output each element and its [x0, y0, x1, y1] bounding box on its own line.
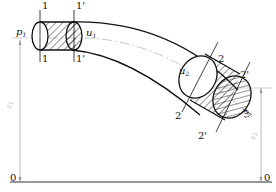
pipe-diagram: [0, 0, 276, 192]
elevation-z2-label: z2: [250, 132, 258, 140]
section-2p-top-label: 2': [240, 70, 249, 80]
section-1-top-label: 1: [42, 1, 48, 11]
datum-left-label: 0: [10, 173, 16, 183]
section-2-top-label: 2: [218, 54, 224, 64]
velocity-u1-label: u1: [86, 28, 96, 39]
pressure-p1-label: p1: [16, 27, 26, 38]
section-2-bottom-label: 2: [175, 111, 181, 121]
section-1p-bottom-label: 1': [76, 54, 85, 64]
section-1p-top-label: 1': [76, 1, 85, 11]
elevation-z1-label: z1: [6, 101, 14, 109]
datum-right-label: 0: [264, 173, 270, 183]
section-1-bottom-label: 1: [42, 54, 48, 64]
section-2p-bottom-label: 2': [198, 131, 207, 141]
velocity-u2-label: u2: [179, 66, 189, 77]
